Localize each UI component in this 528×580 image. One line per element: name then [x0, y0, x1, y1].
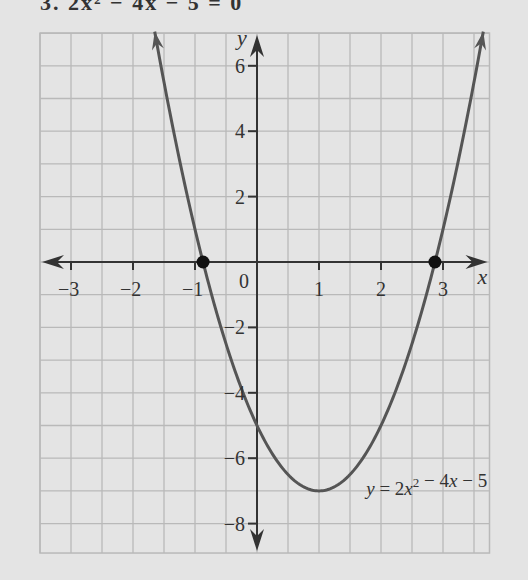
y-axis-label: y [235, 25, 247, 50]
root-point [428, 256, 441, 269]
parabola-chart: −3−2−10123642−2−4−6−8xyy = 2x2 − 4x − 5 [0, 0, 528, 580]
x-tick-label: 2 [376, 278, 386, 300]
x-tick-label: −2 [120, 278, 141, 300]
x-tick-label: 1 [314, 278, 324, 300]
y-tick-label: −6 [224, 447, 245, 469]
y-tick-label: 2 [235, 186, 245, 208]
y-tick-label: −8 [224, 513, 245, 535]
root-point [197, 256, 210, 269]
y-tick-label: 6 [235, 55, 245, 77]
x-tick-label: −1 [182, 278, 203, 300]
x-axis-label: x [477, 264, 488, 289]
equation-label: y = 2x2 − 4x − 5 [364, 470, 487, 499]
x-tick-label: 3 [438, 278, 448, 300]
y-tick-label: 4 [235, 120, 245, 142]
y-tick-label: −2 [224, 316, 245, 338]
x-tick-label: 0 [239, 270, 249, 292]
y-tick-label: −4 [224, 382, 245, 404]
x-tick-label: −3 [58, 278, 79, 300]
